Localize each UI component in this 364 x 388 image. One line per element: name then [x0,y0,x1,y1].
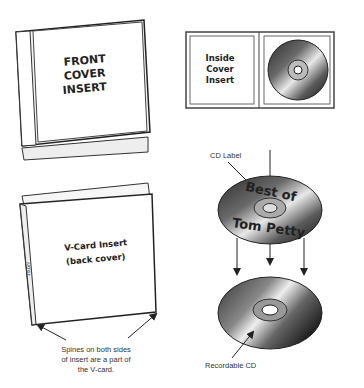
spines-note-line1: Spines on both sides [61,345,131,354]
inside-cover-line1: Inside [205,53,234,63]
open-jewel-case: Inside Cover Insert [186,32,334,108]
cd-label-disc: Best of Tom Petty [218,176,322,244]
spines-note-line2: of insert are a part of [61,355,131,364]
front-cover-case: FRONT COVER INSERT [16,20,150,160]
diagram-canvas: FRONT COVER INSERT Inside Cover Insert V… [0,0,364,388]
inside-cover-line3: Insert [206,75,234,85]
recordable-cd-caption: Recordable CD [205,361,257,370]
spine-arrow-left [38,325,66,340]
inside-cover-line2: Cover [206,64,234,74]
cd-label-pointer [228,162,246,180]
spine-arrow-right [128,314,156,338]
spines-note-line3: the V-card. [78,365,114,374]
recordable-cd [218,277,322,349]
cd-label-caption: CD Label [210,151,242,160]
vcard-insert: V-Card Insert (back cover) ARTIST [20,183,156,325]
vcard-spine-text: ARTIST [26,262,31,276]
